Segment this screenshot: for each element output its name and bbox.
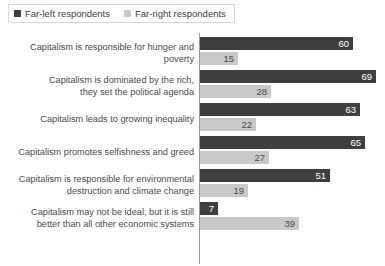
legend-entry-far-left: Far-left respondents (14, 8, 110, 19)
bar-group: Capitalism may not be ideal, but it is s… (0, 202, 385, 235)
bar-far-left: 65 (200, 136, 365, 149)
category-label-line: better than all other economic systems (37, 219, 194, 231)
legend-swatch-far-right-icon (124, 10, 131, 17)
bar-value-label: 15 (200, 52, 238, 65)
category-label: Capitalism is dominated by the rich,they… (6, 70, 194, 103)
legend-entry-far-right: Far-right respondents (124, 8, 226, 19)
bar-group: Capitalism leads to growing inequality63… (0, 103, 385, 136)
chart-plot-area: Capitalism is responsible for hunger and… (0, 33, 385, 266)
category-label: Capitalism leads to growing inequality (6, 103, 194, 136)
bar-value-label: 39 (200, 217, 299, 230)
bar-far-right: 39 (200, 217, 299, 230)
bar-far-left: 7 (200, 202, 218, 215)
bar-value-label: 60 (200, 37, 353, 50)
legend-label-far-left: Far-left respondents (25, 8, 110, 19)
bar-group: Capitalism promotes selfishness and gree… (0, 136, 385, 169)
bar-group: Capitalism is dominated by the rich,they… (0, 70, 385, 103)
category-label: Capitalism is responsible for hunger and… (6, 37, 194, 70)
bar-far-left: 51 (200, 169, 330, 182)
bar-far-left: 60 (200, 37, 353, 50)
category-label-line: they set the political agenda (80, 87, 194, 99)
bar-far-right: 22 (200, 118, 256, 131)
bar-value-label: 69 (200, 70, 376, 83)
chart-legend: Far-left respondents Far-right responden… (8, 4, 235, 23)
bar-value-label: 22 (200, 118, 256, 131)
bar-value-label: 7 (200, 202, 218, 215)
category-label: Capitalism is responsible for environmen… (6, 169, 194, 202)
bar-far-left: 69 (200, 70, 376, 83)
bar-value-label: 19 (200, 184, 248, 197)
bar-value-label: 27 (200, 151, 269, 164)
category-label-line: Capitalism is dominated by the rich, (49, 75, 194, 87)
bar-far-right: 19 (200, 184, 248, 197)
category-label-line: Capitalism is responsible for environmen… (19, 174, 194, 186)
bar-value-label: 28 (200, 85, 271, 98)
bar-far-right: 28 (200, 85, 271, 98)
bar-group: Capitalism is responsible for hunger and… (0, 37, 385, 70)
bar-far-left: 63 (200, 103, 360, 116)
bar-far-right: 15 (200, 52, 238, 65)
category-label-line: Capitalism is responsible for hunger and… (6, 42, 194, 65)
category-label: Capitalism may not be ideal, but it is s… (6, 202, 194, 235)
bar-far-right: 27 (200, 151, 269, 164)
bar-value-label: 63 (200, 103, 360, 116)
category-label-line: destruction and climate change (67, 186, 194, 198)
legend-label-far-right: Far-right respondents (135, 8, 226, 19)
bar-group: Capitalism is responsible for environmen… (0, 169, 385, 202)
category-label-line: Capitalism may not be ideal, but it is s… (31, 207, 194, 219)
bar-value-label: 51 (200, 169, 330, 182)
category-label-line: Capitalism promotes selfishness and gree… (18, 147, 194, 159)
category-label-line: Capitalism leads to growing inequality (40, 114, 194, 126)
bar-value-label: 65 (200, 136, 365, 149)
category-label: Capitalism promotes selfishness and gree… (6, 136, 194, 169)
legend-swatch-far-left-icon (14, 10, 21, 17)
